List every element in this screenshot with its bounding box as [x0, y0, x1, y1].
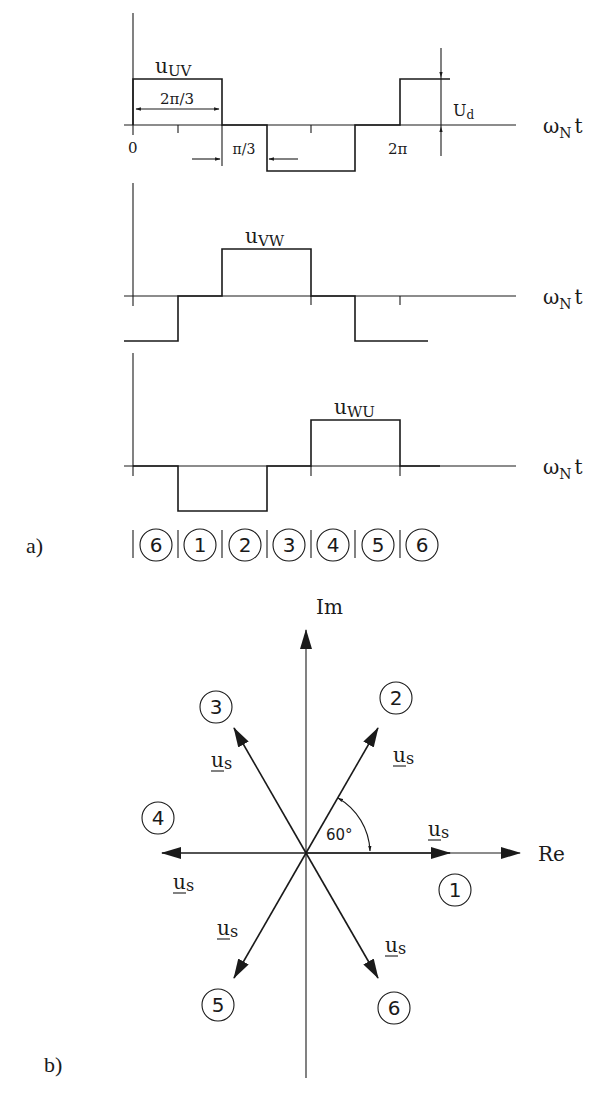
waveform-label-uv: uUV	[155, 54, 193, 80]
space-vector-diagram: Im Re 60° us us us us us	[142, 595, 565, 1078]
sector-marker-5: 5	[202, 989, 234, 1021]
svg-text:2: 2	[390, 686, 403, 710]
vector-label-3: us	[211, 748, 232, 773]
sector-marker-1: 1	[439, 874, 471, 906]
width-annotation: 2π/3	[160, 90, 194, 108]
vector-6	[306, 853, 378, 978]
svg-text:5: 5	[372, 533, 385, 557]
origin-tick-label: 0	[128, 139, 138, 157]
svg-text:us: us	[217, 916, 238, 941]
vector-label-6: us	[385, 933, 406, 958]
sector-3: 3	[273, 529, 305, 561]
part-a-label: a)	[26, 533, 43, 558]
sector-marker-4: 4	[142, 802, 174, 834]
part-b-label: b)	[44, 1052, 62, 1077]
svg-text:3: 3	[210, 695, 223, 719]
vw-signal	[124, 249, 428, 341]
sector-6-right: 6	[406, 529, 438, 561]
sector-marker-3: 3	[200, 691, 232, 723]
vector-label-1: us	[428, 817, 449, 842]
sector-2: 2	[229, 529, 261, 561]
inverter-voltage-diagram: 2π/3 π/3 Ud 0 2π uUV ωNt uVW ωNt uWU ωNt	[0, 0, 598, 1108]
waveform-vw-plot: uVW ωNt	[124, 183, 583, 341]
angle-label: 60°	[326, 826, 353, 844]
sector-1: 1	[184, 529, 216, 561]
vector-label-5: us	[217, 916, 238, 941]
svg-text:us: us	[428, 817, 449, 842]
sector-6-left: 6	[140, 529, 172, 561]
re-axis-label: Re	[538, 842, 565, 866]
svg-text:4: 4	[327, 533, 340, 557]
svg-text:us: us	[173, 870, 194, 895]
waveform-wu-plot: uWU ωNt	[124, 353, 583, 511]
sector-strip: 6 1 2 3 4 5 6	[133, 529, 438, 561]
svg-text:6: 6	[416, 533, 429, 557]
time-axis-label: ωNt	[543, 455, 583, 482]
svg-text:2: 2	[239, 533, 252, 557]
svg-text:us: us	[393, 743, 414, 768]
vector-5	[234, 853, 306, 978]
svg-text:us: us	[385, 933, 406, 958]
waveform-label-vw: uVW	[245, 224, 285, 250]
im-axis-label: Im	[316, 595, 343, 619]
svg-text:6: 6	[388, 996, 401, 1020]
svg-text:1: 1	[449, 878, 462, 902]
svg-text:3: 3	[283, 533, 296, 557]
gap-annotation: π/3	[233, 141, 256, 157]
sector-4: 4	[317, 529, 349, 561]
vector-label-4: us	[173, 870, 194, 895]
sector-marker-2: 2	[380, 682, 412, 714]
svg-text:5: 5	[212, 993, 225, 1017]
amplitude-label: Ud	[453, 101, 474, 122]
waveform-uv-plot: 2π/3 π/3 Ud 0 2π uUV ωNt	[124, 13, 583, 171]
sector-marker-6: 6	[378, 992, 410, 1024]
time-axis-label: ωNt	[543, 285, 583, 312]
svg-text:us: us	[211, 748, 232, 773]
sector-5: 5	[362, 529, 394, 561]
waveform-label-wu: uWU	[334, 395, 375, 421]
time-axis-label: ωNt	[543, 114, 583, 141]
svg-text:4: 4	[152, 806, 165, 830]
vector-3	[234, 728, 306, 853]
vector-label-2: us	[393, 743, 414, 768]
period-tick-label: 2π	[388, 140, 408, 158]
svg-text:6: 6	[150, 533, 163, 557]
svg-text:1: 1	[194, 533, 207, 557]
